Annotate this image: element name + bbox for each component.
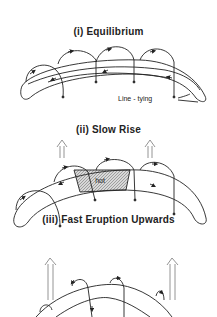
flux-rope-inner [56,298,150,317]
panel-2-slow-rise: hot [14,140,207,227]
flux-rope-diagram: Line - tying hot [0,0,217,317]
flux-rope-outer [36,284,172,317]
upward-arrow [57,140,67,158]
upward-arrow [145,140,155,158]
panel-3-fast-eruption [36,258,178,317]
upward-arrow [45,258,56,300]
upward-arrow [167,258,178,300]
hot-label: hot [95,177,105,184]
line-tying-label: Line - tying [118,95,152,103]
panel-1-equilibrium: Line - tying [21,47,206,103]
line-tying-pointer [178,94,190,98]
